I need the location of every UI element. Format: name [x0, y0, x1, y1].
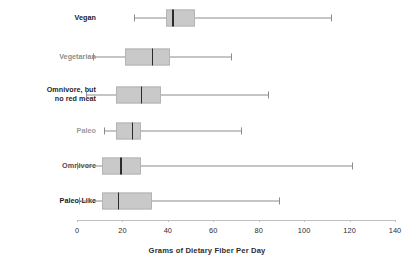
lower-whisker-cap: [134, 14, 135, 21]
x-tick-label: 20: [118, 226, 126, 235]
upper-whisker: [195, 18, 331, 19]
x-tick-label: 0: [75, 226, 79, 235]
median-line: [172, 10, 173, 27]
upper-whisker-cap: [331, 14, 332, 21]
x-tick-mark: [259, 220, 260, 222]
upper-whisker: [170, 57, 231, 58]
upper-whisker: [141, 131, 241, 132]
x-tick-label: 40: [164, 226, 172, 235]
lower-whisker: [86, 95, 116, 96]
median-line: [152, 49, 153, 66]
x-tick-mark: [122, 220, 123, 222]
upper-whisker: [161, 95, 268, 96]
x-tick-mark: [304, 220, 305, 222]
upper-whisker-cap: [268, 91, 269, 98]
box-iqr: [116, 87, 161, 104]
lower-whisker-cap: [86, 91, 87, 98]
lower-whisker-cap: [104, 127, 105, 134]
upper-whisker-cap: [352, 162, 353, 169]
lower-whisker-cap: [79, 197, 80, 204]
upper-whisker-cap: [241, 127, 242, 134]
box-iqr: [166, 10, 196, 27]
upper-whisker: [141, 166, 352, 167]
lower-whisker-cap: [77, 162, 78, 169]
x-tick-mark: [350, 220, 351, 222]
x-tick-mark: [213, 220, 214, 222]
x-tick-mark: [77, 220, 78, 222]
upper-whisker-cap: [231, 53, 232, 60]
lower-whisker: [134, 18, 166, 19]
x-tick-label: 140: [389, 226, 402, 235]
x-tick-label: 100: [298, 226, 311, 235]
box-iqr: [125, 49, 170, 66]
median-line: [120, 158, 121, 175]
median-line: [132, 123, 133, 140]
x-tick-mark: [395, 220, 396, 222]
x-axis-title: Grams of Dietary Fiber Per Day: [0, 246, 414, 255]
x-tick-label: 60: [209, 226, 217, 235]
box-iqr: [116, 123, 141, 140]
lower-whisker: [104, 131, 115, 132]
x-tick-label: 120: [343, 226, 356, 235]
x-tick-label: 80: [254, 226, 262, 235]
upper-whisker-cap: [279, 197, 280, 204]
x-axis-line: [77, 220, 395, 221]
upper-whisker: [152, 201, 279, 202]
lower-whisker: [77, 166, 102, 167]
x-tick-mark: [168, 220, 169, 222]
box-plot-chart: VeganVegetarianOmnivore, but no red meat…: [0, 0, 414, 270]
median-line: [118, 193, 119, 210]
lower-whisker: [93, 57, 125, 58]
lower-whisker: [79, 201, 102, 202]
median-line: [141, 87, 142, 104]
lower-whisker-cap: [93, 53, 94, 60]
box-iqr: [102, 193, 152, 210]
